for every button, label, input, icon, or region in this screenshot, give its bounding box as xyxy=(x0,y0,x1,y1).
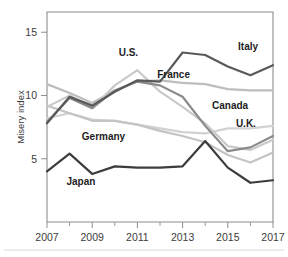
series-label-u-k: U.K. xyxy=(236,118,256,129)
series-label-france: France xyxy=(157,69,190,80)
x-axis-tick-labels: 200720092011201320152017 xyxy=(35,231,285,243)
y-tick-label-15: 15 xyxy=(25,26,37,38)
x-axis-minor-ticks xyxy=(70,222,251,226)
series-label-italy: Italy xyxy=(238,41,258,52)
chart-figure: 200720092011201320152017 51015 U.S.Franc… xyxy=(0,0,288,257)
y-axis-tick-labels: 51015 xyxy=(25,26,37,165)
y-tick-label-10: 10 xyxy=(25,89,37,101)
series-label-u-s: U.S. xyxy=(119,47,139,58)
series-label-japan: Japan xyxy=(66,176,95,187)
x-tick-label-2013: 2013 xyxy=(171,231,195,243)
series-label-canada: Canada xyxy=(212,100,249,111)
x-tick-label-2017: 2017 xyxy=(261,231,285,243)
x-tick-label-2009: 2009 xyxy=(81,231,105,243)
y-tick-label-5: 5 xyxy=(31,153,37,165)
x-tick-label-2007: 2007 xyxy=(35,231,59,243)
y-axis-ticks xyxy=(41,32,47,159)
x-tick-label-2011: 2011 xyxy=(126,231,149,243)
series-label-germany: Germany xyxy=(82,131,126,142)
misery-index-line-chart: 200720092011201320152017 51015 U.S.Franc… xyxy=(0,0,288,257)
y-axis-title: Misery index xyxy=(15,90,26,144)
x-tick-label-2015: 2015 xyxy=(216,231,240,243)
